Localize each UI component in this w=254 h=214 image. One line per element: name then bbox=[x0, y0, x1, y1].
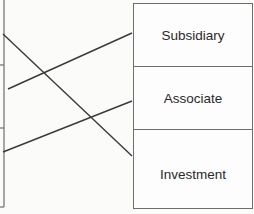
box-subsidiary: Subsidiary bbox=[134, 4, 252, 66]
box-investment: Investment bbox=[134, 129, 252, 209]
left-column-frame bbox=[0, 0, 4, 207]
connector-left1-to-investment bbox=[3, 34, 132, 156]
connector-left3-to-associate bbox=[3, 101, 132, 152]
diagram-canvas: Subsidiary Associate Investment bbox=[0, 0, 254, 214]
box-label: Subsidiary bbox=[161, 28, 224, 43]
box-label: Associate bbox=[164, 91, 223, 106]
box-associate: Associate bbox=[134, 66, 252, 130]
box-label: Investment bbox=[160, 167, 226, 182]
right-column: Subsidiary Associate Investment bbox=[133, 3, 253, 209]
connector-left2-to-subsidiary bbox=[8, 33, 132, 89]
